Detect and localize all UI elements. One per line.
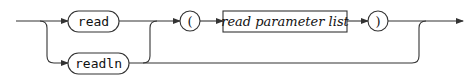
terminal-readln: readln — [68, 53, 129, 74]
terminal-lparen-label: ( — [187, 14, 192, 29]
branch-readln — [40, 21, 68, 63]
terminal-read-label: read — [78, 14, 109, 29]
terminal-read: read — [68, 11, 119, 32]
nonterminal-read-parameter-list: read parameter list — [221, 11, 349, 32]
readln-merge-up — [129, 21, 157, 63]
terminal-lparen: ( — [180, 11, 200, 31]
terminal-readln-label: readln — [75, 56, 122, 71]
syntax-diagram: read readln ( read parameter list ) — [0, 0, 474, 78]
terminal-rparen: ) — [368, 11, 388, 31]
nonterminal-label: read parameter list — [221, 14, 349, 29]
terminal-rparen-label: ) — [375, 14, 380, 29]
